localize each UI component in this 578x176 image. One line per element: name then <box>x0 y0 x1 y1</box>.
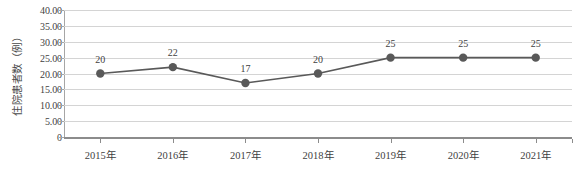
gridline <box>64 137 572 138</box>
data-point-marker <box>169 63 177 71</box>
data-label: 25 <box>386 38 396 49</box>
data-point-marker <box>532 53 540 61</box>
data-point-marker <box>314 69 322 77</box>
y-axis-tick-labels: 05.0010.0015.0020.0025.0030.0035.0040.00 <box>18 0 62 140</box>
plot-area: 20221720252525 <box>64 10 572 137</box>
data-point-marker <box>96 69 104 77</box>
data-label: 25 <box>458 38 468 49</box>
data-label: 20 <box>313 54 323 65</box>
data-label: 22 <box>168 47 178 58</box>
line-chart: 住院患者数（例） 05.0010.0015.0020.0025.0030.003… <box>0 0 578 176</box>
data-point-marker <box>459 53 467 61</box>
series-line <box>64 10 572 137</box>
data-label: 17 <box>240 63 250 74</box>
x-tick-label: 2018年 <box>303 147 334 162</box>
data-label: 25 <box>531 38 541 49</box>
x-tick-label: 2015年 <box>85 147 116 162</box>
data-point-marker <box>386 53 394 61</box>
x-tick-label: 2021年 <box>520 147 551 162</box>
x-tick-label: 2019年 <box>375 147 406 162</box>
x-tick-label: 2017年 <box>230 147 261 162</box>
x-tick-mark <box>572 139 573 143</box>
x-axis-tick-labels: 2015年2016年2017年2018年2019年2020年2021年 <box>64 143 572 167</box>
x-tick-label: 2016年 <box>157 147 188 162</box>
data-point-marker <box>241 79 249 87</box>
x-tick-label: 2020年 <box>448 147 479 162</box>
data-label: 20 <box>95 54 105 65</box>
